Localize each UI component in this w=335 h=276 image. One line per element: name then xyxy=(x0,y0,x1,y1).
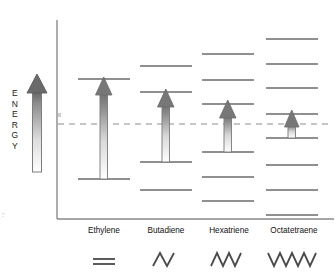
column-label-butadiene: Butadiene xyxy=(134,226,198,236)
column-label-hexatriene: Hexatriene xyxy=(196,226,262,236)
energy-axis-label: ENERGY xyxy=(8,88,22,152)
energy-label-letter: E xyxy=(8,88,22,99)
transition-arrow-shaft xyxy=(162,104,170,162)
column-label-octatetraene: Octatetraene xyxy=(256,226,332,236)
energy-label-letter: R xyxy=(8,120,22,131)
energy-label-letter: N xyxy=(8,99,22,110)
axis-tick-mark xyxy=(58,113,61,117)
energy-label-letter: Y xyxy=(8,141,22,152)
transition-arrow-shaft xyxy=(100,92,108,179)
energy-label-letter: E xyxy=(8,109,22,120)
energy-label-letter: G xyxy=(8,130,22,141)
column-label-ethylene: Ethylene xyxy=(74,226,134,236)
energy-arrow-shaft xyxy=(33,90,42,172)
transition-arrow-shaft xyxy=(224,115,232,152)
energy-level-diagram: ENERGY Ethylene Butadiene Hexatriene Oct… xyxy=(0,0,335,276)
